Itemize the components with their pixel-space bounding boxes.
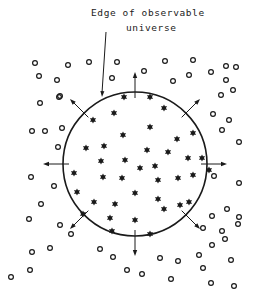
distant-galaxy-icon — [225, 207, 230, 212]
distant-galaxy-icon — [115, 60, 120, 65]
star-galaxy-icon — [175, 174, 181, 181]
distant-galaxy-icon — [220, 128, 225, 133]
distant-galaxy-icon — [9, 275, 14, 280]
distant-galaxy-icon — [169, 277, 174, 282]
distant-galaxy-icon — [142, 69, 147, 74]
expansion-arrows-group — [43, 72, 227, 256]
distant-galaxy-icon — [58, 223, 63, 228]
expanding-universe-diagram: Edge of observable universe — [0, 0, 258, 302]
arrowhead-icon — [221, 162, 227, 166]
distant-galaxy-icon — [209, 281, 214, 286]
distant-galaxy-icon — [33, 61, 38, 66]
distant-galaxy-icon — [231, 88, 236, 93]
arrowhead-icon — [133, 250, 137, 256]
distant-galaxy-icon — [224, 78, 229, 83]
distant-galaxy-icon — [229, 258, 234, 263]
diagram-canvas — [0, 0, 258, 302]
distant-galaxy-icon — [201, 266, 206, 271]
star-galaxy-icon — [98, 157, 104, 164]
distant-galaxy-icon — [87, 60, 92, 65]
star-galaxy-icon — [71, 169, 77, 176]
star-galaxy-icon — [132, 216, 138, 223]
star-galaxy-icon — [186, 198, 192, 205]
distant-galaxy-icon — [140, 272, 145, 277]
star-galaxy-icon — [132, 189, 138, 196]
distant-galaxy-icon — [210, 243, 215, 248]
distant-galaxy-icon — [236, 222, 241, 227]
distant-galaxy-icon — [30, 250, 35, 255]
star-galaxy-icon — [100, 173, 106, 180]
distant-galaxy-icon — [125, 268, 130, 273]
distant-galaxy-icon — [191, 58, 196, 63]
distant-galaxy-icon — [171, 79, 176, 84]
distant-galaxy-icon — [227, 118, 232, 123]
distant-galaxy-icon — [158, 256, 163, 261]
distant-galaxy-icon — [30, 129, 35, 134]
star-galaxy-icon — [165, 148, 171, 155]
star-galaxy-icon — [185, 154, 191, 161]
distant-galaxy-icon — [210, 214, 215, 219]
star-galaxy-icon — [111, 109, 117, 116]
distant-galaxy-icon — [38, 101, 43, 106]
distant-galaxy-icon — [52, 184, 57, 189]
star-galaxy-icon — [147, 123, 153, 130]
distant-galaxy-icon — [209, 70, 214, 75]
distant-galaxy-icon — [163, 59, 168, 64]
distant-galaxy-icon — [212, 174, 217, 179]
distant-galaxy-icon — [224, 64, 229, 69]
distant-galaxy-icon — [55, 78, 60, 83]
distant-galaxy-icon — [219, 93, 224, 98]
star-galaxy-icon — [137, 164, 143, 171]
distant-galaxy-icon — [211, 112, 216, 117]
distant-galaxy-icon — [197, 253, 202, 258]
star-galaxy-icon — [152, 162, 158, 169]
distant-galaxy-icon — [110, 76, 115, 81]
distant-galaxy-icon — [37, 74, 42, 79]
distant-galaxy-icon — [237, 140, 242, 145]
star-galaxy-icon — [122, 156, 128, 163]
star-galaxy-icon — [190, 171, 196, 178]
star-galaxy-icon — [161, 205, 167, 212]
star-galaxy-icon — [90, 116, 96, 123]
distant-galaxy-icon — [237, 181, 242, 186]
distant-galaxy-icon — [223, 237, 228, 242]
expansion-arrow-shaft — [73, 102, 89, 118]
distant-galaxy-icon — [28, 268, 33, 273]
distant-galaxy-icon — [237, 215, 242, 220]
star-galaxy-icon — [83, 144, 89, 151]
distant-galaxy-icon — [234, 65, 239, 70]
star-galaxy-icon — [177, 201, 183, 208]
distant-galaxy-icon — [60, 126, 65, 131]
star-galaxy-icon — [161, 104, 167, 111]
distant-galaxy-icon — [176, 259, 181, 264]
distant-galaxy-icon — [98, 247, 103, 252]
expansion-arrow-shaft — [182, 102, 198, 118]
star-galaxy-icon — [190, 129, 196, 136]
distant-galaxy-icon — [29, 175, 34, 180]
arrowhead-icon — [133, 72, 137, 78]
star-galaxy-icon — [91, 198, 97, 205]
star-galaxy-icon — [155, 176, 161, 183]
star-galaxy-icon — [119, 174, 125, 181]
distant-galaxy-icon — [27, 217, 32, 222]
distant-galaxy-icon — [43, 129, 48, 134]
star-galaxy-icon — [199, 154, 205, 161]
observable-galaxies-group — [71, 93, 212, 237]
distant-galaxy-icon — [187, 73, 192, 78]
distant-galaxy-icon — [232, 284, 237, 289]
label-pointer-arrow — [100, 32, 106, 97]
distant-galaxy-icon — [66, 63, 71, 68]
arrowhead-icon — [43, 162, 49, 166]
distant-galaxy-icon — [56, 145, 61, 150]
distant-galaxy-icon — [220, 229, 225, 234]
star-galaxy-icon — [144, 146, 150, 153]
expansion-arrow-shaft — [182, 211, 198, 227]
distant-galaxy-icon — [69, 232, 74, 237]
distant-galaxy-icon — [39, 202, 44, 207]
star-galaxy-icon — [120, 131, 126, 138]
star-galaxy-icon — [155, 195, 161, 202]
distant-galaxy-icon — [111, 255, 116, 260]
distant-galaxy-icon — [201, 226, 206, 231]
distant-galaxy-icon — [48, 246, 53, 251]
star-galaxy-icon — [74, 188, 80, 195]
